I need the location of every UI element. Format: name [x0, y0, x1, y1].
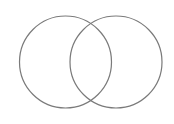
left-circle: [20, 16, 112, 108]
venn-diagram-svg: [0, 0, 174, 124]
right-circle: [70, 16, 162, 108]
venn-diagram: [0, 0, 174, 124]
